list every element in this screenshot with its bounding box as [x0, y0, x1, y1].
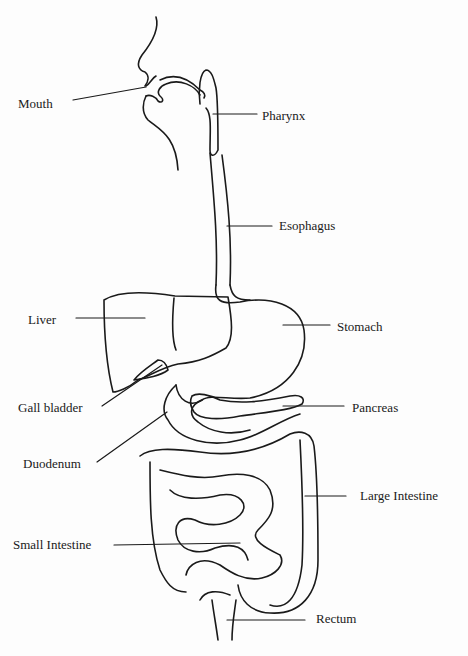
label-large-intestine: Large Intestine: [360, 489, 438, 502]
palate: [160, 77, 205, 98]
leader-line-small-intestine: [114, 543, 240, 545]
label-small-intestine: Small Intestine: [13, 538, 91, 551]
rectum-shape: [200, 592, 236, 640]
digestive-system-diagram: Mouth Pharynx Esophagus Liver Stomach Ga…: [0, 0, 468, 656]
gallbladder-shape: [134, 360, 168, 380]
digestive-system-drawing: [0, 0, 468, 656]
label-gall-bladder: Gall bladder: [18, 401, 83, 414]
label-pancreas: Pancreas: [352, 401, 398, 414]
label-liver: Liver: [28, 313, 56, 326]
pharynx-shape: [199, 70, 218, 155]
stomach-shape: [176, 285, 305, 403]
leader-line-mouth: [73, 87, 146, 100]
label-stomach: Stomach: [337, 320, 383, 333]
esophagus-shape: [210, 153, 231, 285]
label-duodenum: Duodenum: [23, 457, 81, 470]
duodenum-shape: [164, 385, 300, 443]
label-rectum: Rectum: [316, 612, 356, 625]
label-esophagus: Esophagus: [279, 219, 335, 232]
label-pharynx: Pharynx: [262, 109, 305, 122]
liver-shape: [104, 293, 232, 392]
small-intestine-shape: [160, 470, 282, 579]
lips: [146, 76, 200, 102]
leader-line-duodenum: [97, 412, 167, 462]
label-mouth: Mouth: [18, 97, 53, 110]
leader-lines: [73, 87, 346, 620]
